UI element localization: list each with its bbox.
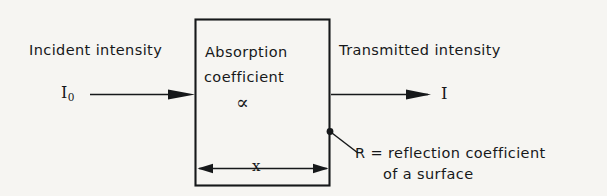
incident-intensity-symbol: I0 — [61, 83, 74, 102]
reflection-leader-line — [330, 132, 358, 154]
incident-arrow-head — [168, 90, 195, 100]
incident-symbol-base: I — [61, 83, 67, 102]
thickness-arrow-head-right — [313, 164, 329, 173]
absorption-coefficient-symbol: ∝ — [236, 93, 249, 112]
transmitted-arrow-head — [406, 90, 431, 100]
transmitted-intensity-caption: Transmitted intensity — [339, 42, 501, 58]
thickness-label: x — [252, 157, 260, 175]
slab-label-line-1: Absorption — [205, 44, 288, 60]
transmitted-intensity-symbol: I — [441, 84, 448, 103]
reflection-note-line-1: R = reflection coefficient — [355, 145, 546, 161]
diagram-vector-layer — [0, 0, 607, 196]
slab-label-line-2: coefficient — [204, 69, 284, 85]
reflection-note-line-2: of a surface — [383, 166, 473, 182]
incident-intensity-caption: Incident intensity — [29, 42, 162, 58]
incident-symbol-subscript: 0 — [68, 91, 75, 103]
figure-canvas: Incident intensity I0 Absorption coeffic… — [0, 0, 607, 196]
thickness-arrow-head-left — [198, 164, 214, 173]
